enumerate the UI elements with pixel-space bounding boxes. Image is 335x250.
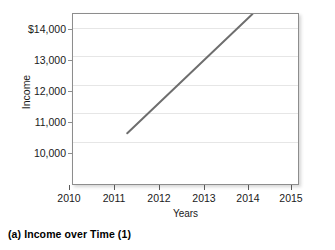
x-tick-label: 2010	[49, 192, 89, 204]
x-tick-mark	[291, 185, 292, 190]
x-tick-mark	[248, 185, 249, 190]
x-tick-label: 2013	[184, 192, 224, 204]
x-tick-label: 2015	[271, 192, 311, 204]
x-tick-mark	[204, 185, 205, 190]
y-tick-label: 12,000	[4, 86, 66, 97]
x-tick-label: 2014	[228, 192, 268, 204]
y-tick-label: $14,000	[4, 24, 66, 35]
y-axis-title: Income	[20, 62, 32, 122]
y-tick-mark	[68, 122, 72, 123]
y-tick-label: 13,000	[4, 55, 66, 66]
x-tick-label: 2012	[139, 192, 179, 204]
figure-caption: (a) Income over Time (1)	[8, 228, 131, 240]
y-tick-mark	[68, 60, 72, 61]
x-tick-mark	[114, 185, 115, 190]
y-tick-mark	[68, 91, 72, 92]
x-tick-label: 2011	[94, 192, 134, 204]
y-tick-mark	[68, 153, 72, 154]
x-tick-mark	[69, 185, 70, 190]
y-tick-label: 11,000	[4, 117, 66, 128]
y-tick-mark	[68, 29, 72, 30]
x-axis-title: Years	[72, 208, 299, 219]
y-tick-label: 10,000	[4, 148, 66, 159]
figure-income-over-time: $14,000 13,000 12,000 11,000 10,000 Inco…	[0, 0, 335, 250]
x-tick-mark	[159, 185, 160, 190]
